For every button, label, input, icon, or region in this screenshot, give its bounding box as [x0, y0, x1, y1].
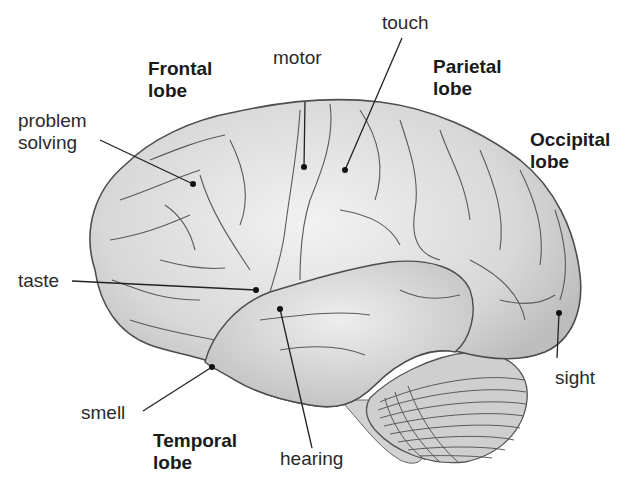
- motor-label: motor: [273, 47, 322, 69]
- occipital-lobe-label: Occipital lobe: [530, 129, 610, 173]
- problem-solving-label: problem solving: [18, 110, 87, 154]
- frontal-lobe-label: Frontal lobe: [148, 58, 212, 102]
- touch-label: touch: [382, 12, 428, 34]
- brain-diagram: Frontal lobe Parietal lobe Occipital lob…: [0, 0, 630, 488]
- sight-label: sight: [555, 367, 595, 389]
- temporal-lobe-label: Temporal lobe: [153, 430, 237, 474]
- taste-label: taste: [18, 270, 59, 292]
- parietal-lobe-label: Parietal lobe: [433, 56, 502, 100]
- smell-label: smell: [81, 402, 125, 424]
- hearing-label: hearing: [280, 448, 343, 470]
